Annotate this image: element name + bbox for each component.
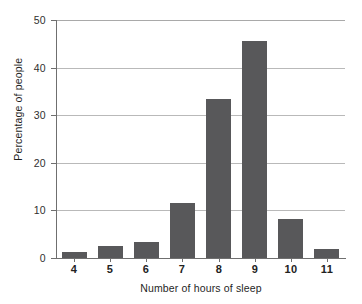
x-tick-11	[327, 258, 328, 262]
x-tick-7	[182, 258, 183, 262]
y-tick-label-10: 10	[16, 205, 46, 216]
bar-chart-figure: 01020304050 4567891011 Number of hours o…	[0, 0, 362, 304]
bar-8	[206, 99, 231, 258]
y-tick-40	[51, 68, 56, 69]
y-tick-label-0: 0	[16, 253, 46, 264]
bar-7	[170, 203, 195, 258]
x-tick-9	[255, 258, 256, 262]
x-tick-label-6: 6	[129, 264, 163, 275]
x-tick-label-5: 5	[93, 264, 127, 275]
x-tick-5	[110, 258, 111, 262]
x-tick-8	[219, 258, 220, 262]
x-tick-4	[74, 258, 75, 262]
x-tick-label-8: 8	[202, 264, 236, 275]
x-tick-label-9: 9	[238, 264, 272, 275]
y-tick-30	[51, 115, 56, 116]
bar-11	[314, 249, 339, 258]
y-tick-0	[51, 258, 56, 259]
x-tick-label-10: 10	[274, 264, 308, 275]
bar-10	[278, 219, 303, 258]
y-tick-20	[51, 163, 56, 164]
y-axis-spine	[56, 20, 57, 259]
y-tick-10	[51, 210, 56, 211]
x-axis-spine	[56, 258, 346, 259]
y-axis-label: Percentage of people	[13, 39, 24, 179]
bar-6	[134, 242, 159, 258]
bar-5	[98, 246, 123, 258]
bar-9	[242, 41, 267, 258]
x-tick-label-11: 11	[310, 264, 344, 275]
x-tick-6	[146, 258, 147, 262]
y-tick-label-50: 50	[16, 15, 46, 26]
x-axis-label: Number of hours of sleep	[56, 283, 346, 294]
x-tick-10	[291, 258, 292, 262]
x-tick-label-4: 4	[57, 264, 91, 275]
plot-area	[56, 20, 345, 258]
bar-series	[56, 20, 345, 258]
x-tick-label-7: 7	[165, 264, 199, 275]
y-tick-50	[51, 20, 56, 21]
